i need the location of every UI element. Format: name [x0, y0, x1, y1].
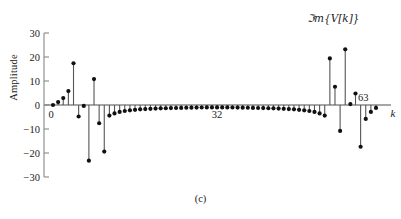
data-point-marker — [51, 103, 55, 107]
data-point-marker — [61, 96, 65, 100]
data-point-marker — [251, 106, 255, 110]
data-point-marker — [179, 106, 183, 110]
data-point-marker — [343, 47, 347, 51]
data-point-marker — [266, 106, 270, 110]
y-axis-tick-label: 20 — [30, 52, 41, 63]
figure-container: Amplitude ℑm{V[k]} 3020100−10−20−3003263… — [0, 0, 401, 219]
data-point-marker — [353, 91, 357, 95]
y-axis-tick-label: −20 — [24, 148, 40, 159]
data-point-marker — [318, 111, 322, 115]
data-point-marker — [82, 104, 86, 108]
data-point-marker — [164, 106, 168, 110]
data-point-marker — [66, 89, 70, 93]
data-point-marker — [282, 107, 286, 111]
data-point-marker — [184, 106, 188, 110]
y-axis-tick-label: 10 — [30, 76, 41, 87]
x-tick-label-63: 63 — [358, 92, 369, 103]
data-point-marker — [302, 108, 306, 112]
data-point-marker — [71, 61, 75, 65]
data-point-marker — [169, 106, 173, 110]
data-point-marker — [297, 108, 301, 112]
data-point-marker — [87, 159, 91, 163]
data-point-marker — [112, 111, 116, 115]
x-tick-label-0: 0 — [48, 109, 53, 120]
data-point-marker — [97, 121, 101, 125]
data-point-marker — [328, 56, 332, 60]
data-point-marker — [77, 114, 81, 118]
data-point-marker — [133, 108, 137, 112]
data-point-marker — [189, 106, 193, 110]
data-point-marker — [200, 105, 204, 109]
x-axis-label: k — [391, 107, 397, 119]
data-point-marker — [374, 106, 378, 110]
data-point-marker — [143, 107, 147, 111]
data-point-marker — [215, 105, 219, 109]
figure-caption: (c) — [0, 193, 401, 204]
data-point-marker — [56, 100, 60, 104]
data-point-marker — [230, 105, 234, 109]
data-point-marker — [225, 105, 229, 109]
data-point-marker — [107, 113, 111, 117]
data-point-marker — [246, 106, 250, 110]
data-point-marker — [333, 85, 337, 89]
data-point-marker — [359, 145, 363, 149]
data-point-marker — [364, 117, 368, 121]
data-point-marker — [287, 107, 291, 111]
data-point-marker — [338, 129, 342, 133]
data-point-marker — [220, 105, 224, 109]
data-point-marker — [210, 105, 214, 109]
data-point-marker — [261, 106, 265, 110]
data-point-marker — [194, 105, 198, 109]
data-point-marker — [92, 77, 96, 81]
data-point-marker — [312, 110, 316, 114]
data-point-marker — [292, 107, 296, 111]
data-point-marker — [138, 107, 142, 111]
data-point-marker — [128, 108, 132, 112]
data-point-marker — [276, 107, 280, 111]
data-point-marker — [271, 106, 275, 110]
data-point-marker — [307, 109, 311, 113]
data-point-marker — [153, 107, 157, 111]
data-point-marker — [123, 109, 127, 113]
data-point-marker — [348, 102, 352, 106]
data-point-marker — [323, 113, 327, 117]
data-point-marker — [148, 107, 152, 111]
data-point-marker — [118, 110, 122, 114]
data-point-marker — [369, 110, 373, 114]
data-point-marker — [102, 149, 106, 153]
data-point-marker — [256, 106, 260, 110]
data-point-marker — [174, 106, 178, 110]
y-axis-tick-label: −10 — [24, 124, 40, 135]
y-axis-tick-label: 30 — [30, 28, 41, 39]
data-point-marker — [235, 105, 239, 109]
data-point-marker — [159, 106, 163, 110]
data-point-marker — [241, 106, 245, 110]
data-point-marker — [205, 105, 209, 109]
y-axis-tick-label: −30 — [24, 172, 40, 183]
stem-plot: 3020100−10−20−3003263k — [0, 0, 401, 192]
x-tick-label-32: 32 — [212, 109, 223, 120]
y-axis-tick-label: 0 — [35, 100, 40, 111]
